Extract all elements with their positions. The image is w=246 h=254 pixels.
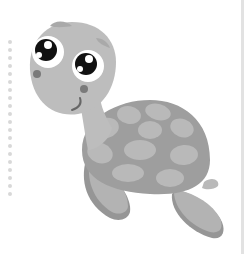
illustration-canvas xyxy=(0,0,246,254)
turtle-illustration xyxy=(0,0,246,254)
right-eye xyxy=(72,50,104,82)
turtle-head xyxy=(30,22,116,151)
left-eye xyxy=(32,36,64,68)
left-cheek xyxy=(33,70,41,78)
right-cheek xyxy=(80,85,88,93)
